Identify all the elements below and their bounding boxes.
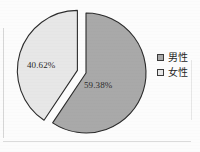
pie-chart-figure: 40.62% 59.38% 男性 女性 [0, 0, 200, 152]
legend-label-male: 男性 [168, 52, 188, 63]
chart-legend: 男性 女性 [157, 50, 199, 80]
pie-slices [17, 10, 146, 133]
legend-item-female[interactable]: 女性 [157, 65, 199, 79]
legend-label-female: 女性 [168, 67, 188, 78]
pie-slice-label-male: 59.38% [84, 80, 112, 90]
legend-item-male[interactable]: 男性 [157, 50, 199, 64]
legend-swatch-male-icon [157, 54, 164, 61]
pie-slice-label-female: 40.62% [27, 60, 55, 70]
legend-swatch-female-icon [157, 69, 164, 76]
